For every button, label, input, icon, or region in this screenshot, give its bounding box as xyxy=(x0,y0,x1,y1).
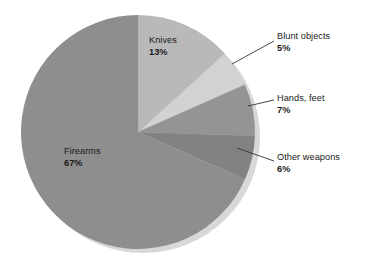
slice-label-blunt-objects: Blunt objects 5% xyxy=(277,31,330,54)
slice-label-knives: Knives 13% xyxy=(149,35,177,58)
leader-line-blunt-objects xyxy=(232,41,274,64)
slice-label-firearms: Firearms 67% xyxy=(64,146,101,169)
slice-label-blunt-objects-name: Blunt objects xyxy=(277,31,330,43)
slice-label-other-weapons: Other weapons 6% xyxy=(277,152,340,175)
slice-label-firearms-name: Firearms xyxy=(64,146,101,158)
slice-label-firearms-value: 67% xyxy=(64,158,101,170)
pie-chart: Knives 13% Firearms 67% Blunt objects 5%… xyxy=(0,0,366,264)
slice-label-knives-name: Knives xyxy=(149,35,177,47)
slice-label-other-weapons-value: 6% xyxy=(277,164,340,176)
slice-label-hands-feet-value: 7% xyxy=(277,105,325,117)
slice-label-hands-feet-name: Hands, feet xyxy=(277,93,325,105)
slice-label-hands-feet: Hands, feet 7% xyxy=(277,93,325,116)
slice-label-other-weapons-name: Other weapons xyxy=(277,152,340,164)
slice-label-knives-value: 13% xyxy=(149,47,177,59)
slice-label-blunt-objects-value: 5% xyxy=(277,43,330,55)
